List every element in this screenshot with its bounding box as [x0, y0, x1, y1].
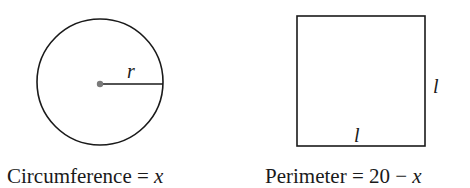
- geometry-figure: r Circumference = x l l Perimeter = 20 −…: [0, 0, 470, 188]
- center-dot: [97, 81, 103, 87]
- side-label-bottom: l: [354, 124, 360, 146]
- circle-figure: r Circumference = x: [7, 19, 164, 188]
- radius-label: r: [127, 60, 135, 82]
- square-shape: [297, 16, 425, 146]
- circumference-caption-text: Circumference =: [7, 164, 154, 188]
- perimeter-caption-text: Perimeter = 20 −: [265, 164, 412, 188]
- circumference-caption: Circumference = x: [7, 164, 164, 188]
- perimeter-caption: Perimeter = 20 − x: [265, 164, 422, 188]
- side-label-right: l: [433, 75, 439, 97]
- square-figure: l l Perimeter = 20 − x: [265, 16, 439, 188]
- circumference-caption-var: x: [153, 164, 164, 188]
- perimeter-caption-var: x: [411, 164, 422, 188]
